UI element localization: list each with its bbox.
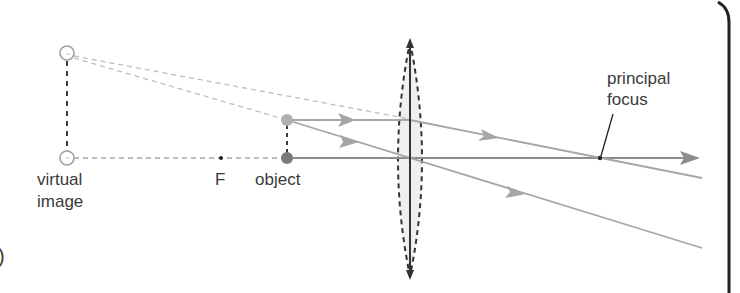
virtual-image-label-line1: virtual bbox=[37, 170, 82, 189]
virtual-ray-extension-2 bbox=[74, 58, 287, 120]
lens-top-arrowhead bbox=[406, 38, 414, 48]
principal-focus-label-line2: focus bbox=[607, 90, 648, 109]
lens-bottom-arrowhead bbox=[406, 270, 414, 280]
object-label: object bbox=[255, 170, 300, 189]
virtual-image-top-point bbox=[60, 46, 74, 60]
focal-point-f bbox=[219, 156, 223, 160]
object-bottom-point bbox=[281, 152, 293, 164]
virtual-image-label-line2: image bbox=[37, 192, 83, 211]
part-marker: ) bbox=[0, 247, 5, 266]
ray-centre-arrow-1 bbox=[339, 135, 359, 148]
principal-focus-point bbox=[598, 156, 602, 160]
virtual-ray-extension-1 bbox=[74, 56, 410, 119]
object-top-point bbox=[281, 114, 293, 126]
ray-diagram bbox=[0, 0, 740, 293]
principal-focus-leader bbox=[601, 114, 613, 156]
panel-border bbox=[718, 2, 729, 293]
principal-focus-label-line1: principal bbox=[607, 69, 670, 88]
ray-parallel bbox=[287, 120, 702, 178]
focal-point-label: F bbox=[215, 170, 225, 189]
